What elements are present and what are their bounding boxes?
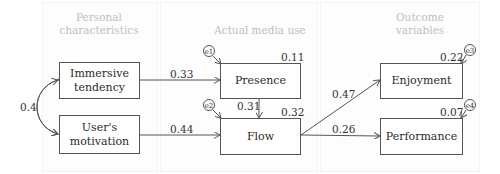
- r2-presence: 0.11: [281, 51, 304, 63]
- node-label: Enjoyment: [392, 74, 452, 88]
- coef-motivation-flow: 0.44: [170, 123, 193, 135]
- error-term-e4: e4: [464, 99, 476, 111]
- node-label: Immersive: [70, 67, 129, 81]
- node-flow: Flow: [220, 118, 301, 155]
- node-performance: Performance: [380, 118, 463, 155]
- coef-presence-flow: 0.31: [237, 100, 260, 112]
- node-users-motivation: User's motivation: [59, 115, 140, 154]
- coef-correlation: 0.4: [20, 101, 37, 113]
- node-label: motivation: [70, 135, 129, 149]
- node-label: Performance: [386, 130, 457, 144]
- node-label: User's: [70, 121, 129, 135]
- node-enjoyment: Enjoyment: [380, 63, 463, 99]
- node-label: Flow: [247, 130, 274, 144]
- error-term-e1: e1: [203, 45, 215, 57]
- r2-enjoyment: 0.22: [440, 51, 463, 63]
- node-label: Presence: [235, 74, 286, 88]
- coef-immersive-presence: 0.33: [170, 68, 193, 80]
- coef-flow-enjoyment: 0.47: [332, 88, 355, 100]
- error-term-e3: e3: [464, 44, 476, 56]
- node-label: tendency: [70, 81, 129, 95]
- r2-flow: 0.32: [281, 106, 304, 118]
- coef-flow-performance: 0.26: [332, 123, 355, 135]
- r2-performance: 0.07: [440, 106, 463, 118]
- error-term-e2: e2: [203, 99, 215, 111]
- node-immersive-tendency: Immersive tendency: [59, 62, 140, 99]
- node-presence: Presence: [220, 63, 301, 99]
